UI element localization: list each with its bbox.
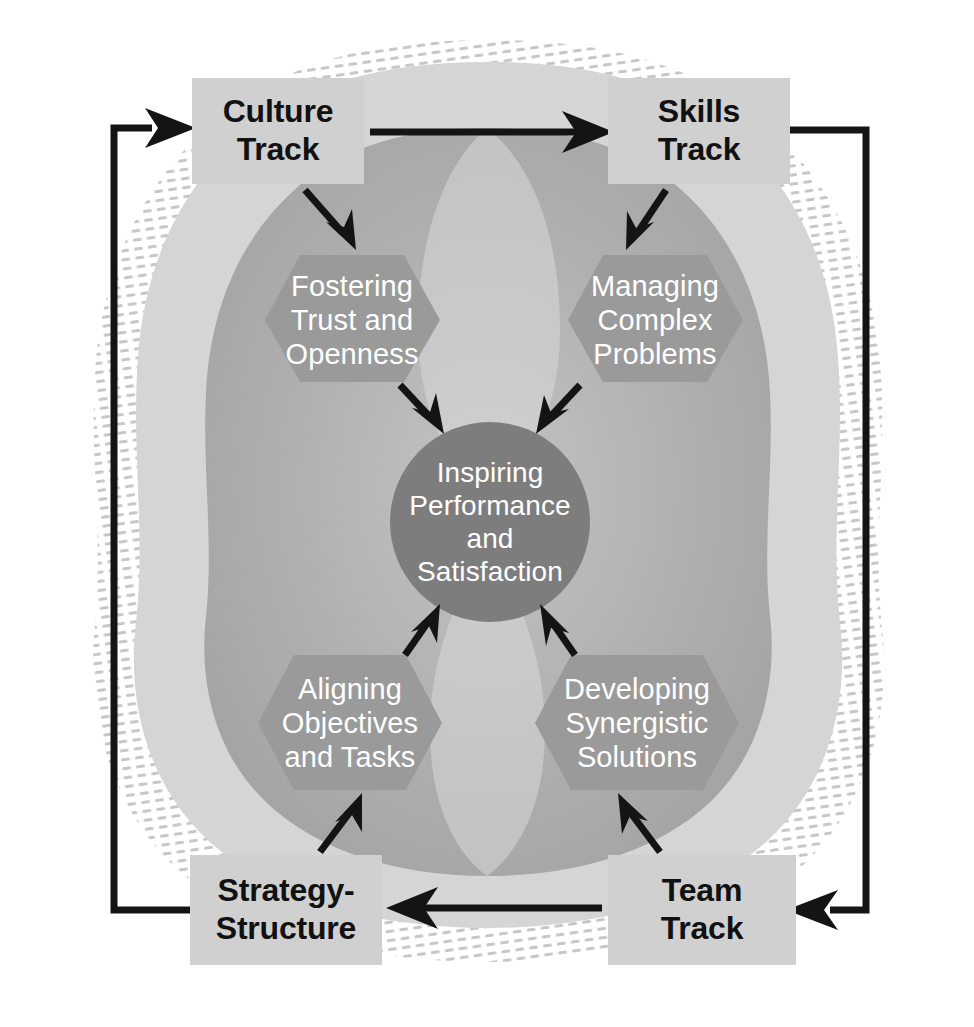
diagram-canvas: Culture Track Skills Track Strategy- Str…	[0, 0, 974, 1027]
hexagon-managing-complex-problems	[568, 255, 743, 382]
track-box-culture-track	[192, 78, 364, 184]
hexagon-aligning-objectives-and-tasks	[258, 655, 442, 790]
track-box-skills-track	[608, 78, 790, 184]
track-box-strategy-structure-track	[190, 855, 382, 965]
hexagon-developing-synergistic-solutions	[535, 655, 739, 790]
hexagon-fostering-trust-and-openness	[265, 255, 440, 382]
diagram-graphics	[0, 0, 974, 1027]
core-circle	[390, 422, 590, 622]
track-box-team-track	[608, 855, 796, 965]
arrowhead-into-culture-track	[145, 108, 196, 148]
